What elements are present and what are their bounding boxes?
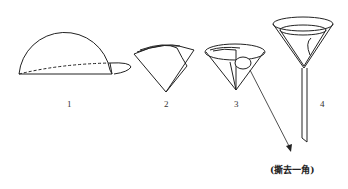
filter-paper-diagram [0, 0, 348, 189]
annotation-tear-corner: (撕去一角) [270, 166, 315, 175]
step-label-4: 4 [320, 100, 325, 109]
step-label-3: 3 [234, 100, 239, 109]
step3-opened-cone [205, 44, 292, 152]
step-label-1: 1 [67, 100, 72, 109]
step1-folded-semicircle [19, 32, 131, 74]
step4-funnel [273, 17, 333, 142]
step2-quarter-fold [134, 45, 194, 92]
step-label-2: 2 [164, 100, 169, 109]
